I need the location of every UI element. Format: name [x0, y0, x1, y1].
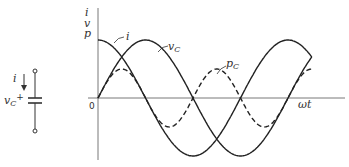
capacitor-circuit: [24, 69, 42, 133]
current-arrow-icon: [21, 85, 27, 91]
pc-curve-label: pC: [226, 57, 239, 71]
voltage-label: vC+: [4, 92, 24, 108]
origin-label: 0: [89, 101, 95, 111]
top-terminal: [33, 69, 37, 73]
bottom-terminal: [33, 129, 37, 133]
i-curve-label: i: [126, 30, 130, 43]
y-axis-label-p: p: [84, 27, 91, 40]
x-axis-label: ωt: [298, 98, 312, 111]
current-label: i: [13, 72, 17, 85]
i-label-leader: [114, 37, 124, 43]
vc-curve-label: vC: [168, 40, 180, 54]
capacitor-diagram: i vC+ i v p 0 ωt i vC pC: [0, 0, 349, 167]
